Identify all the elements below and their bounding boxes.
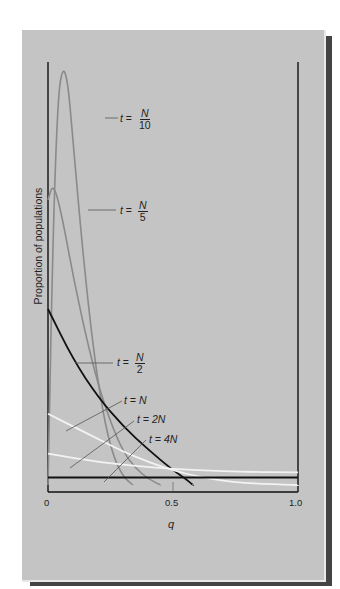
label-t-4n: t = 4N [149, 433, 177, 445]
x-tick-label-0.5: 0.5 [165, 497, 178, 508]
x-tick-label-1.0: 1.0 [289, 497, 302, 508]
label-t-n2: t = N2 [117, 352, 145, 375]
x-tick-label-0: 0 [44, 497, 49, 508]
curves-group [48, 71, 298, 485]
curve-t-n-2 [48, 309, 193, 485]
y-axis-label: Proportion of populations [32, 166, 44, 326]
leader-2n [70, 421, 134, 468]
label-t-2n: t = 2N [137, 413, 165, 425]
label-t-n5: t = N5 [120, 200, 148, 223]
label-t-n: t = N [124, 394, 146, 406]
curve-t-n [48, 414, 298, 485]
label-t-n10: t = N10 [120, 108, 152, 131]
x-axis-label: q [168, 518, 174, 530]
curve-t-n-5 [48, 188, 161, 485]
